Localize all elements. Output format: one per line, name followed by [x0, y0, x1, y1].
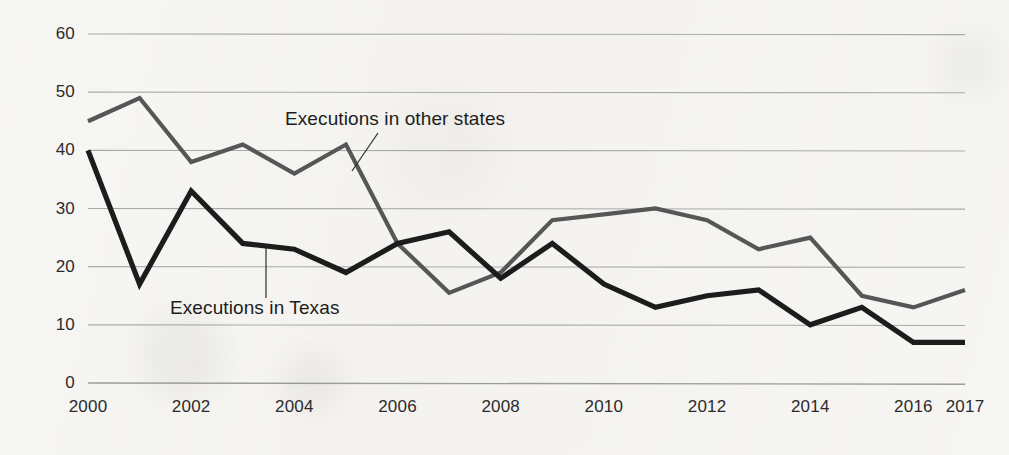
x-tick-label-2002: 2002	[156, 397, 226, 417]
y-tick-label-50: 50	[20, 82, 75, 102]
x-tick-label-2012: 2012	[672, 397, 742, 417]
annotation-texas: Executions in Texas	[170, 297, 339, 319]
x-tick-label-2006: 2006	[363, 397, 433, 417]
x-tick-label-2004: 2004	[259, 397, 329, 417]
annotation-other-states: Executions in other states	[285, 108, 505, 130]
y-tick-label-0: 0	[20, 373, 75, 393]
y-tick-label-40: 40	[20, 140, 75, 160]
gridline-0	[88, 383, 965, 384]
y-tick-label-60: 60	[20, 24, 75, 44]
leader-line-other-states	[352, 133, 378, 171]
gridline-60	[88, 34, 965, 35]
y-tick-label-20: 20	[20, 257, 75, 277]
x-tick-label-2010: 2010	[569, 397, 639, 417]
x-tick-label-2014: 2014	[775, 397, 845, 417]
gridline-50	[88, 92, 965, 93]
series-line-other-states	[88, 98, 965, 307]
y-tick-label-10: 10	[20, 315, 75, 335]
gridline-30	[88, 209, 965, 210]
x-tick-label-2008: 2008	[466, 397, 536, 417]
x-tick-label-2000: 2000	[53, 397, 123, 417]
chart-page: 0102030405060 20002002200420062008201020…	[0, 0, 1009, 455]
x-tick-label-2017: 2017	[930, 397, 1000, 417]
y-tick-label-30: 30	[20, 199, 75, 219]
gridlines	[88, 34, 965, 384]
gridline-10	[88, 325, 965, 326]
line-chart	[0, 0, 1009, 455]
